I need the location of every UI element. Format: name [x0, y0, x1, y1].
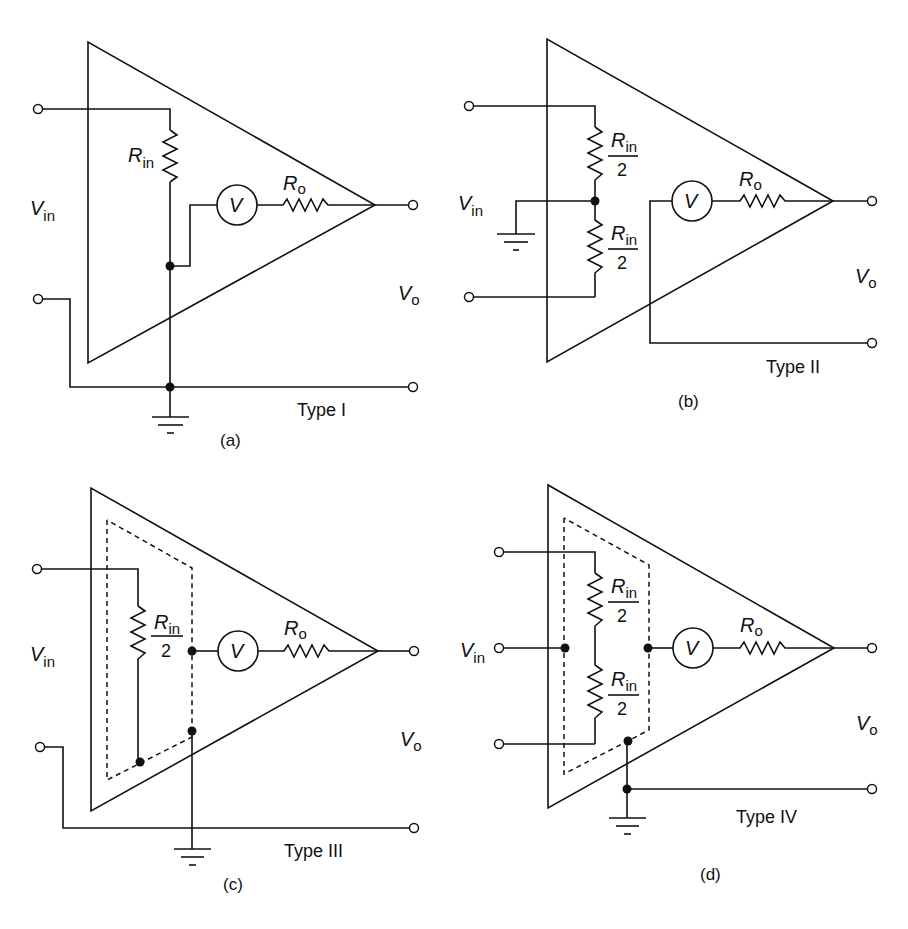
output-terminal-top — [409, 201, 418, 210]
rin-bottom-fraction: Rin 2 — [608, 668, 639, 719]
input-terminal-bottom — [495, 740, 504, 749]
meter-label: V — [685, 637, 700, 659]
rin-bottom-fraction: Rin 2 — [608, 222, 638, 273]
panel-caption: (a) — [220, 431, 241, 450]
ro-label: Ro — [739, 168, 762, 193]
panel-c-type-3: Vin Rin 2 Ro V Vo Type III (c) — [30, 488, 422, 894]
ro-resistor — [258, 645, 378, 657]
output-terminal-bottom — [868, 785, 877, 794]
rin-resistor — [131, 606, 145, 760]
rin-top-resistor — [588, 573, 602, 665]
ground-icon — [609, 818, 646, 834]
vin-label: Vin — [460, 639, 485, 666]
input-top-wire — [503, 552, 595, 573]
guard-shield-outline — [107, 520, 192, 780]
rin-top-resistor — [588, 127, 602, 201]
input-top-wire — [41, 109, 170, 130]
amplifier-types-figure: Vin Rin Ro V Vo Type I (a) Vin Rin — [0, 0, 908, 929]
meter-label: V — [230, 640, 245, 662]
input-bottom-wire — [42, 299, 409, 387]
panel-caption: (c) — [223, 875, 243, 894]
output-terminal-top — [868, 197, 877, 206]
svg-text:2: 2 — [161, 641, 171, 661]
guard-shield-outline — [564, 518, 649, 774]
junction-dot — [561, 644, 570, 653]
panel-caption: (d) — [700, 865, 721, 884]
ground-icon — [152, 417, 189, 433]
ro-resistor — [713, 642, 834, 654]
ro-label: Ro — [283, 172, 306, 197]
output-terminal-top — [868, 644, 877, 653]
svg-text:2: 2 — [617, 160, 627, 180]
svg-text:2: 2 — [617, 699, 627, 719]
vo-label: Vo — [400, 728, 422, 754]
junction-dot — [166, 262, 175, 271]
ro-resistor — [712, 195, 833, 207]
svg-text:Rin: Rin — [611, 575, 637, 601]
rin-fraction: Rin 2 — [151, 611, 183, 661]
vo-label: Vo — [855, 265, 877, 291]
svg-text:Rin: Rin — [611, 129, 637, 155]
rin-bottom-resistor — [588, 665, 602, 744]
panel-d-type-4: Vin Rin 2 Rin 2 Ro V Vo Type IV (d) — [460, 485, 878, 884]
vo-label: Vo — [398, 282, 420, 308]
rin-bottom-resistor — [588, 201, 602, 297]
type-label: Type II — [766, 357, 820, 377]
input-terminal-top — [33, 565, 42, 574]
junction-dot — [624, 737, 633, 746]
junction-dot — [136, 758, 145, 767]
panel-b-type-2: Vin Rin 2 Rin 2 Ro V Vo Type II (b) — [458, 39, 877, 411]
output-terminal-bottom — [409, 383, 418, 392]
input-terminal-top — [495, 548, 504, 557]
vin-label: Vin — [458, 192, 483, 219]
ro-resistor — [257, 199, 375, 211]
vin-label: Vin — [30, 197, 55, 224]
vin-label: Vin — [30, 643, 55, 670]
svg-text:2: 2 — [617, 606, 627, 626]
rin-label: Rin — [128, 144, 154, 171]
ro-label: Ro — [740, 614, 763, 639]
input-terminal-top — [34, 105, 43, 114]
junction-dot — [166, 383, 175, 392]
vo-label: Vo — [856, 712, 878, 738]
ro-label: Ro — [284, 617, 307, 642]
input-terminal-middle — [495, 644, 504, 653]
meter-label: V — [684, 190, 699, 212]
output-terminal-bottom — [410, 824, 419, 833]
input-top-wire — [473, 106, 595, 127]
meter-label: V — [229, 194, 244, 216]
ground-wire — [516, 201, 595, 234]
rin-resistor — [163, 130, 177, 182]
input-terminal-bottom — [465, 293, 474, 302]
meter-feed-wire — [650, 201, 868, 343]
input-terminal-top — [465, 102, 474, 111]
type-label: Type III — [284, 841, 343, 861]
panel-caption: (b) — [678, 392, 699, 411]
svg-text:2: 2 — [617, 253, 627, 273]
svg-text:Rin: Rin — [611, 222, 637, 248]
type-label: Type IV — [736, 807, 797, 827]
meter-feed-wire — [170, 205, 217, 266]
junction-dot — [591, 197, 600, 206]
output-terminal-top — [410, 647, 419, 656]
type-label: Type I — [297, 400, 346, 420]
ground-icon — [174, 849, 211, 865]
input-bottom-wire — [44, 747, 410, 828]
svg-text:Rin: Rin — [154, 611, 180, 637]
ground-icon — [497, 234, 535, 250]
input-top-wire — [41, 569, 138, 606]
panel-a-type-1: Vin Rin Ro V Vo Type I (a) — [30, 42, 420, 450]
input-terminal-bottom — [36, 743, 45, 752]
rin-top-fraction: Rin 2 — [608, 129, 638, 180]
svg-text:Rin: Rin — [611, 668, 637, 694]
rin-top-fraction: Rin 2 — [608, 575, 639, 626]
input-terminal-bottom — [34, 295, 43, 304]
output-terminal-bottom — [868, 339, 877, 348]
